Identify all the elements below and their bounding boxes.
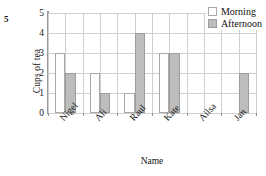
legend-label-afternoon: Afternoon — [221, 18, 262, 29]
y-axis-tick-2: 2 — [30, 69, 44, 78]
chart-page: 5 Cups of tea 012345 NigelAliRaulKateAil… — [0, 0, 266, 176]
y-axis-tick-1: 1 — [30, 89, 44, 98]
legend-swatch-morning-icon — [208, 7, 217, 16]
y-axis-tick-0: 0 — [30, 109, 44, 118]
y-axis-tick-labels: 012345 — [30, 13, 44, 113]
question-number: 5 — [4, 14, 9, 24]
bar-ali-morning — [90, 73, 100, 113]
y-axis-tick-3: 3 — [30, 49, 44, 58]
chart-legend: Morning Afternoon — [206, 4, 264, 30]
bar-raul-afternoon — [135, 33, 145, 113]
legend-label-morning: Morning — [221, 6, 256, 17]
y-axis-tick-5: 5 — [30, 9, 44, 18]
legend-entry-morning: Morning — [208, 5, 262, 17]
x-axis-title: Name — [48, 156, 256, 166]
bar-nigel-morning — [55, 53, 65, 113]
legend-swatch-afternoon-icon — [208, 19, 217, 28]
legend-entry-afternoon: Afternoon — [208, 17, 262, 29]
y-axis-tick-4: 4 — [30, 29, 44, 38]
x-axis-tick — [256, 113, 257, 116]
bar-kate-morning — [159, 53, 169, 113]
x-axis-category-labels: NigelAliRaulKateAilsaJan — [48, 116, 256, 156]
